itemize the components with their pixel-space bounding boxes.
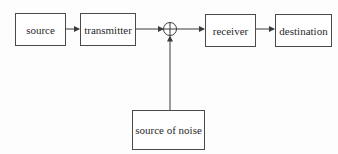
destination-box: destination bbox=[275, 14, 332, 47]
source-label: source bbox=[26, 24, 55, 36]
noise-source-label: source of noise bbox=[135, 124, 202, 136]
receiver-label: receiver bbox=[213, 25, 248, 37]
noise-source-box: source of noise bbox=[132, 110, 205, 150]
summing-junction-icon bbox=[164, 23, 177, 36]
transmitter-label: transmitter bbox=[84, 24, 132, 36]
destination-label: destination bbox=[279, 25, 327, 37]
receiver-box: receiver bbox=[205, 14, 256, 47]
source-box: source bbox=[15, 13, 66, 46]
communication-diagram: source transmitter receiver destination … bbox=[0, 0, 338, 154]
transmitter-box: transmitter bbox=[80, 13, 136, 46]
